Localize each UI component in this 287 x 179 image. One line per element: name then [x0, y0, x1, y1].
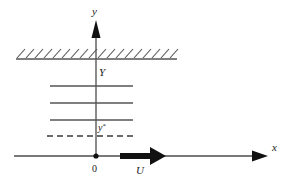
x-axis-arrowhead-icon [252, 151, 268, 162]
hatched-wall-group [16, 49, 178, 59]
y-axis-label: y [91, 5, 97, 17]
free-stream-velocity-arrow [120, 147, 166, 165]
y-star-superscript: * [102, 122, 106, 130]
flow-arrow-head-icon [150, 147, 166, 165]
flow-arrow-label: U [136, 164, 145, 176]
wall-height-label: Y [99, 66, 107, 78]
origin-point-marker [93, 153, 98, 158]
x-axis-label: x [271, 141, 277, 153]
wall-hatching-icon [17, 49, 178, 58]
diagram-canvas: y x 0 Y y* U [0, 0, 287, 179]
y-axis-arrowhead-icon [92, 20, 101, 38]
origin-label: 0 [92, 163, 97, 174]
y-star-label: y* [97, 122, 106, 134]
velocity-profile-lines [47, 86, 133, 136]
